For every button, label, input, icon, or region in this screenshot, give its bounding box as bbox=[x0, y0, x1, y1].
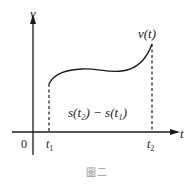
curve-label: v(t) bbox=[138, 26, 156, 41]
velocity-time-diagram: v t 0 t1 t2 v(t) s(t₂) − s(t₁) bbox=[0, 0, 194, 188]
area-label: s(t₂) − s(t₁) bbox=[68, 105, 127, 120]
velocity-curve bbox=[49, 44, 152, 84]
t2-label: t2 bbox=[147, 137, 154, 153]
x-axis-arrow-icon bbox=[170, 129, 180, 135]
x-axis-label: t bbox=[180, 126, 184, 141]
y-axis-label: v bbox=[30, 6, 36, 21]
origin-label: 0 bbox=[21, 137, 27, 151]
t1-label: t1 bbox=[46, 137, 53, 153]
figure-caption: 圖二 bbox=[0, 164, 194, 179]
